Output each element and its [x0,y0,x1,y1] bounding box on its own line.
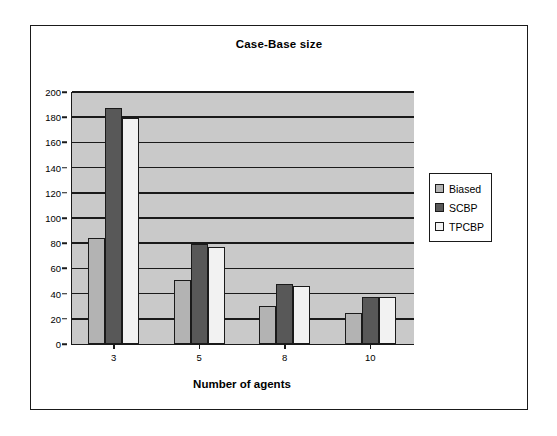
y-tick-label: 60 [50,263,61,274]
legend-item-biased[interactable]: Biased [435,179,484,198]
y-tick-mark [62,192,67,194]
y-tick-label: 20 [50,313,61,324]
bar-tpcbp-8 [293,286,310,344]
y-tick-mark [62,242,67,244]
bar-group [345,92,396,344]
bar-scbp-3 [105,108,122,344]
legend-swatch-icon [435,184,444,193]
bar-group [174,92,225,344]
legend-label: Biased [449,183,481,195]
y-tick-mark [62,142,67,144]
x-tick-mark [284,344,286,349]
y-tick-mark [62,268,67,270]
bar-scbp-5 [191,244,208,344]
x-tick-mark [370,344,372,349]
y-tick-label: 200 [45,87,61,98]
y-tick-label: 160 [45,137,61,148]
x-tick-label: 5 [197,352,202,363]
y-tick-label: 100 [45,213,61,224]
x-axis-title: Number of agents [71,378,413,390]
y-tick-label: 0 [56,339,61,350]
y-tick-label: 80 [50,238,61,249]
legend-label: TPCBP [449,221,484,233]
y-tick-mark [62,116,67,118]
y-tick-mark [62,293,67,295]
x-tick-label: 8 [282,352,287,363]
bar-tpcbp-3 [122,118,139,344]
x-tick-label: 10 [365,352,376,363]
legend-item-scbp[interactable]: SCBP [435,198,484,217]
y-tick-mark [62,318,67,320]
y-tick-mark [62,167,67,169]
legend-item-tpcbp[interactable]: TPCBP [435,217,484,236]
chart-figure-frame: Case-Base size 0204060801001201401601802… [30,25,528,410]
bar-biased-5 [174,280,191,344]
y-tick-label: 120 [45,187,61,198]
chart-title: Case-Base size [31,38,527,50]
bar-tpcbp-5 [208,247,225,344]
legend-label: SCBP [449,202,478,214]
y-axis: 020406080100120140160180200 [31,92,67,344]
x-tick-mark [199,344,201,349]
bar-biased-8 [259,306,276,344]
y-tick-mark [62,343,67,345]
legend-swatch-icon [435,222,444,231]
legend-swatch-icon [435,203,444,212]
y-tick-mark [62,217,67,219]
y-tick-mark [62,91,67,93]
x-tick-label: 3 [111,352,116,363]
bar-biased-3 [88,238,105,344]
bar-biased-10 [345,313,362,345]
y-tick-label: 40 [50,288,61,299]
x-axis-labels: 35810 [71,352,413,368]
bar-group [88,92,139,344]
bar-tpcbp-10 [379,297,396,344]
bar-group [259,92,310,344]
bar-scbp-8 [276,284,293,344]
bar-scbp-10 [362,297,379,344]
x-axis-ticks [71,344,413,350]
chart-legend: BiasedSCBPTPCBP [429,173,492,242]
y-tick-label: 140 [45,162,61,173]
bars-layer [71,92,413,344]
x-tick-mark [113,344,115,349]
y-tick-label: 180 [45,112,61,123]
